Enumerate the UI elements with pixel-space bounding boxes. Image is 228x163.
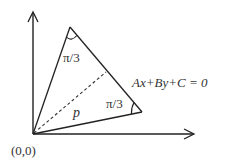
line-equation-label: Ax+By+C = 0 <box>131 75 208 90</box>
diagram-canvas: π/3 π/3 Ax+By+C = 0 p (0,0) <box>0 0 228 163</box>
angle-label-right: π/3 <box>106 96 123 111</box>
origin-label: (0,0) <box>11 143 36 158</box>
triangle-side-bottom <box>33 112 142 134</box>
angle-arc-top <box>67 36 78 40</box>
angle-label-top: π/3 <box>63 50 80 65</box>
angle-arc-right <box>131 103 134 115</box>
distance-label: p <box>72 105 80 120</box>
perpendicular-distance-line <box>34 72 106 133</box>
